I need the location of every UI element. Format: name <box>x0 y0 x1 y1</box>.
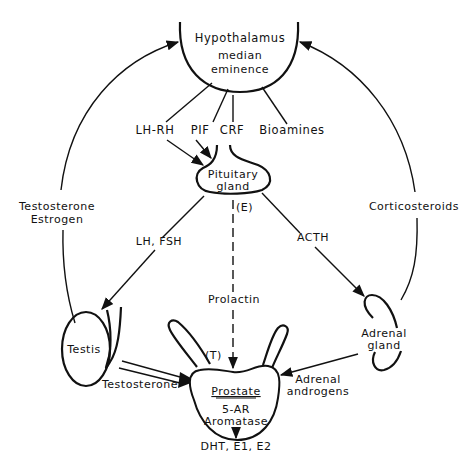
eminence-label: eminence <box>211 63 269 76</box>
testis-node: Testis <box>62 307 121 386</box>
estrogen-marker: (E) <box>236 201 253 214</box>
prolactin-label: Prolactin <box>208 293 260 306</box>
hypothalamus-node: Hypothalamus median eminence <box>180 22 298 92</box>
left-feedback-arc-lower <box>63 230 75 323</box>
testosterone-label: Testosterone <box>101 378 178 391</box>
lhrh-arrow <box>167 140 203 165</box>
adrenal-upper-outline <box>365 295 397 328</box>
acth-line-upper <box>262 193 300 233</box>
pif-line <box>213 89 228 122</box>
right-seminal-vesicle <box>263 326 288 368</box>
lhfsh-label: LH, FSH <box>136 235 182 248</box>
lhrh-label: LH-RH <box>136 123 175 137</box>
median-label: median <box>218 49 262 62</box>
bioamines-line <box>262 87 287 124</box>
adrenal-label-2: gland <box>367 339 400 352</box>
bioamines-label: Bioamines <box>259 123 324 137</box>
products-label: DHT, E1, E2 <box>201 440 272 453</box>
aromatase-label: Aromatase <box>204 415 268 428</box>
prostate-label: Prostate <box>211 385 260 398</box>
lhrh-line <box>166 83 212 122</box>
lhfsh-arrow <box>102 250 155 309</box>
lhfsh-line-upper <box>162 196 204 238</box>
adrenal-androgens-label-2: androgens <box>287 385 350 398</box>
testis-label: Testis <box>66 343 100 356</box>
adrenal-node: Adrenal gland <box>361 295 407 370</box>
endocrine-diagram: Hypothalamus median eminence LH-RH PIF C… <box>0 0 470 460</box>
left-feedback-arc-upper <box>61 42 178 190</box>
pituitary-label-2: gland <box>216 180 249 193</box>
right-feedback-arc-lower <box>401 218 417 300</box>
prostate-t-marker: (T) <box>205 349 222 362</box>
adrenal-androgens-arrow <box>281 354 358 375</box>
testosterone-line-1 <box>122 361 180 377</box>
crf-label: CRF <box>220 123 244 137</box>
adrenal-lower-outline <box>373 351 401 370</box>
corticosteroids-label: Corticosteroids <box>369 200 459 213</box>
pif-arrow <box>196 140 211 158</box>
pituitary-node: Pituitary gland <box>197 145 270 194</box>
pif-label: PIF <box>191 123 210 137</box>
feedback-estrogen-label: Estrogen <box>31 213 84 226</box>
acth-arrow <box>315 247 364 296</box>
right-feedback-arc-upper <box>300 42 415 192</box>
left-seminal-vesicle <box>169 320 210 367</box>
feedback-testosterone-label: Testosterone <box>18 200 95 213</box>
prostate-node: (T) Prostate 5-AR Aromatase DHT, E1, E2 <box>169 320 288 453</box>
hypothalamus-label: Hypothalamus <box>195 31 286 45</box>
acth-label: ACTH <box>297 231 329 244</box>
